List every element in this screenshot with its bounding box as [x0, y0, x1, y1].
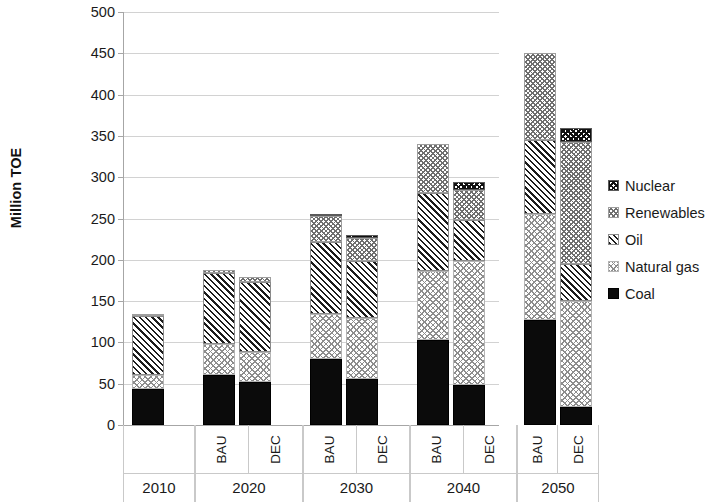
x-axis-scenario-row: BAUDEC	[304, 425, 409, 474]
plot-area: 050100150200250300350400450500	[123, 12, 499, 425]
bar-segment-natural-gas	[524, 214, 556, 320]
legend-label: Renewables	[625, 205, 705, 221]
x-axis-year-label: 2020	[196, 473, 302, 502]
scenario-text: BAU	[214, 435, 229, 463]
scenario-text: DEC	[570, 435, 585, 464]
bar-segment-natural-gas	[346, 318, 378, 379]
y-tick-label: 250	[67, 211, 115, 227]
x-axis-group-2030: BAUDEC2030	[303, 425, 410, 502]
bar-2010	[132, 314, 164, 425]
bar-segment-natural-gas	[132, 375, 164, 389]
bar-segment-oil	[346, 261, 378, 318]
x-axis-group-2040: BAUDEC2040	[410, 425, 517, 502]
bar-segment-nuclear	[560, 128, 592, 142]
y-tick-label: 300	[67, 169, 115, 185]
x-axis-group-2020: BAUDEC2020	[195, 425, 303, 502]
bar-segment-coal	[417, 340, 449, 425]
scenario-text: BAU	[530, 435, 545, 463]
bar-segment-natural-gas	[310, 314, 342, 359]
x-axis-group-2050: BAUDEC2050	[517, 425, 599, 502]
legend-item-nuclear[interactable]: Nuclear	[608, 172, 712, 199]
bar-segment-coal	[310, 359, 342, 425]
bar-segment-coal	[453, 385, 485, 425]
x-axis-year-label: 2050	[518, 473, 598, 502]
legend: NuclearRenewablesOilNatural gasCoal	[608, 172, 712, 307]
bar-2020-bau	[203, 270, 235, 425]
bar-group-container	[124, 12, 499, 425]
bar-segment-coal	[132, 389, 164, 425]
x-axis-scenario-label: DEC	[464, 425, 517, 473]
bar-2050-dec	[560, 128, 592, 425]
y-tick-label: 100	[67, 334, 115, 350]
bar-segment-oil	[524, 140, 556, 214]
bar-segment-natural-gas	[417, 271, 449, 340]
bar-segment-oil	[560, 264, 592, 301]
bar-segment-oil	[203, 273, 235, 344]
bar-2030-bau	[310, 214, 342, 425]
solid-black-icon	[608, 288, 619, 299]
bar-segment-natural-gas	[560, 301, 592, 407]
x-axis-year-label: 2040	[411, 473, 516, 502]
y-tick-label: 500	[67, 4, 115, 20]
x-axis: 2010BAUDEC2020BAUDEC2030BAUDEC2040BAUDEC…	[123, 425, 499, 502]
bar-2020-dec	[239, 277, 271, 425]
x-axis-scenario-label: BAU	[196, 425, 249, 473]
medium-cross-icon	[608, 207, 619, 218]
bar-2040-dec	[453, 182, 485, 425]
y-tick-label: 0	[67, 417, 115, 433]
bar-2040-bau	[417, 144, 449, 425]
legend-label: Nuclear	[625, 178, 675, 194]
scenario-text: DEC	[268, 435, 283, 464]
scenario-text: DEC	[375, 435, 390, 464]
diagonal-stripe-icon	[608, 234, 619, 245]
bar-segment-renewables	[453, 190, 485, 221]
legend-item-natural-gas[interactable]: Natural gas	[608, 253, 712, 280]
legend-label: Natural gas	[625, 259, 699, 275]
x-axis-scenario-label: BAU	[518, 425, 558, 473]
x-axis-scenario-label: BAU	[304, 425, 357, 473]
bar-segment-renewables	[560, 142, 592, 264]
y-tick-label: 450	[67, 45, 115, 61]
legend-item-coal[interactable]: Coal	[608, 280, 712, 307]
bar-segment-renewables	[417, 144, 449, 193]
bar-segment-natural-gas	[239, 352, 271, 382]
bar-segment-nuclear	[453, 182, 485, 189]
legend-item-oil[interactable]: Oil	[608, 226, 712, 253]
legend-label: Oil	[625, 232, 643, 248]
bar-segment-oil	[132, 316, 164, 375]
bar-segment-oil	[310, 242, 342, 314]
bar-segment-coal	[524, 320, 556, 425]
bar-segment-oil	[417, 193, 449, 271]
x-axis-scenario-label: DEC	[357, 425, 410, 473]
x-axis-scenario-row: BAUDEC	[518, 425, 598, 474]
stacked-bar-chart: Million TOE 0501001502002503003504004505…	[0, 0, 712, 502]
x-axis-scenario-row: BAUDEC	[196, 425, 302, 474]
bar-segment-renewables	[310, 216, 342, 242]
dense-cross-icon	[608, 180, 619, 191]
bar-2050-bau	[524, 53, 556, 425]
y-tick-label: 50	[67, 376, 115, 392]
bar-segment-coal	[203, 375, 235, 425]
y-tick-label: 400	[67, 87, 115, 103]
bar-segment-coal	[239, 382, 271, 425]
legend-item-renewables[interactable]: Renewables	[608, 199, 712, 226]
bar-segment-oil	[239, 282, 271, 352]
bar-segment-oil	[453, 220, 485, 261]
y-axis-title: Million TOE	[8, 128, 24, 248]
bar-segment-natural-gas	[203, 344, 235, 375]
bar-segment-renewables	[524, 53, 556, 140]
x-axis-scenario-label	[124, 425, 194, 473]
y-tick-label: 350	[67, 128, 115, 144]
light-cross-icon	[608, 261, 619, 272]
legend-label: Coal	[625, 286, 655, 302]
y-tick-label: 200	[67, 252, 115, 268]
x-axis-year-label: 2010	[124, 473, 194, 502]
y-tick-label: 150	[67, 293, 115, 309]
bar-2030-dec	[346, 235, 378, 425]
x-axis-scenario-label: DEC	[249, 425, 302, 473]
x-axis-scenario-row: BAUDEC	[411, 425, 516, 474]
x-axis-scenario-label: BAU	[411, 425, 464, 473]
scenario-text: BAU	[429, 435, 444, 463]
bar-segment-coal	[346, 379, 378, 425]
x-axis-group-2010: 2010	[123, 425, 195, 502]
